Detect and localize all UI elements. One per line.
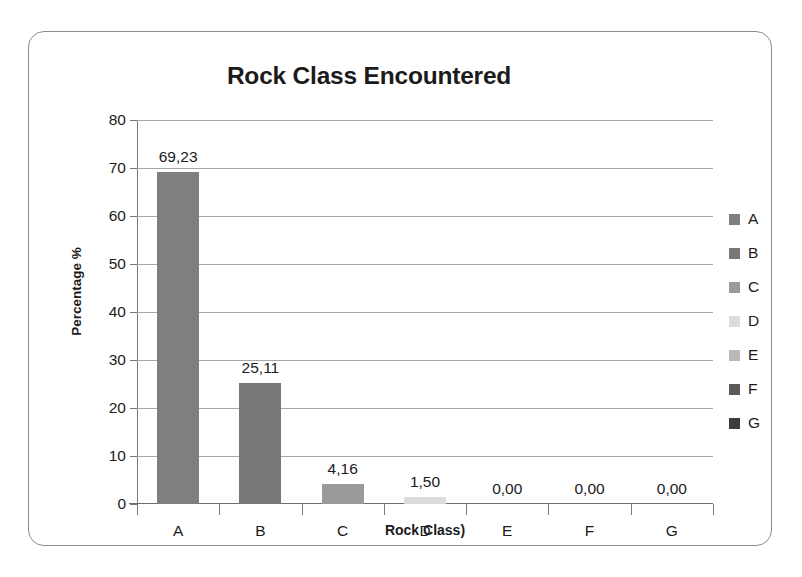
legend-item-d[interactable]: D [729,304,799,338]
y-tick-mark [130,120,137,121]
bar-value-label: 4,16 [328,460,358,478]
x-tick-mark [548,504,549,515]
x-tick-mark [713,504,714,515]
bar-value-label: 1,50 [410,473,440,491]
y-tick-mark [130,360,137,361]
x-tick-mark [466,504,467,515]
bar[interactable] [322,484,364,504]
legend-item-c[interactable]: C [729,270,799,304]
y-tick-label: 10 [109,447,126,465]
y-tick-mark [130,408,137,409]
legend-swatch-icon [729,350,740,361]
legend-swatch-icon [729,316,740,327]
bar-value-label: 69,23 [159,148,198,166]
legend-label: B [748,245,758,261]
legend-item-g[interactable]: G [729,406,799,440]
y-tick-label: 70 [109,159,126,177]
bar-group: 0,00 [548,120,630,504]
y-tick-label: 0 [117,495,126,513]
y-tick-label: 80 [109,111,126,129]
legend-label: D [748,313,759,329]
legend-swatch-icon [729,248,740,259]
bar[interactable] [239,383,281,504]
x-tick-mark [631,504,632,515]
x-axis-title: Rock Class) [385,522,465,538]
legend-label: C [748,279,759,295]
legend-item-e[interactable]: E [729,338,799,372]
y-tick-label: 30 [109,351,126,369]
y-tick-mark [130,312,137,313]
bar-value-label: 25,11 [242,359,280,377]
x-category-label: A [173,522,183,540]
plot-area: 01020304050607080 69,2325,114,161,500,00… [137,120,713,504]
bar-value-label: 0,00 [574,480,604,498]
legend-label: G [748,415,760,431]
y-tick-mark [130,264,137,265]
x-category-label: B [255,522,265,540]
y-tick-label: 60 [109,207,126,225]
bar[interactable] [157,172,199,504]
y-tick-mark [130,216,137,217]
bar-group: 0,00 [631,120,713,504]
x-category-label: C [337,522,348,540]
bar[interactable] [404,497,446,504]
y-tick-label: 40 [109,303,126,321]
chart-title: Rock Class Encountered [29,62,709,90]
x-category-label: E [502,522,512,540]
bar-group: 69,23 [137,120,219,504]
x-tick-mark [384,504,385,515]
x-category-label: F [585,522,594,540]
bar-group: 25,11 [219,120,301,504]
bar-group: 4,16 [302,120,384,504]
legend-label: A [748,211,758,227]
y-tick-mark [130,504,137,505]
legend-swatch-icon [729,384,740,395]
legend-item-f[interactable]: F [729,372,799,406]
y-tick-mark [130,456,137,457]
x-category-label: G [666,522,678,540]
y-axis-title: Percentage % [69,232,84,352]
y-tick-label: 20 [109,399,126,417]
legend-item-a[interactable]: A [729,202,799,236]
x-tick-mark [302,504,303,515]
legend: ABCDEFG [729,202,799,440]
bar-group: 1,50 [384,120,466,504]
legend-item-b[interactable]: B [729,236,799,270]
x-tick-mark [137,504,138,515]
legend-swatch-icon [729,214,740,225]
y-tick-mark [130,168,137,169]
chart-frame: Rock Class Encountered Percentage % 0102… [28,31,772,546]
y-tick-label: 50 [109,255,126,273]
legend-swatch-icon [729,282,740,293]
legend-swatch-icon [729,418,740,429]
legend-label: E [748,347,758,363]
legend-label: F [748,381,757,397]
bar-group: 0,00 [466,120,548,504]
bar-value-label: 0,00 [657,480,687,498]
bar-value-label: 0,00 [492,480,522,498]
x-tick-mark [219,504,220,515]
